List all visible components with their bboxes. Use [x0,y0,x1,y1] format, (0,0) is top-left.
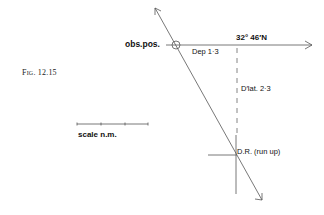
obs-pos-label: obs.pos. [125,39,160,49]
departure-label: Dep 1·3 [192,47,219,56]
plotting-diagram [0,0,324,215]
dlat-label: D′lat. 2·3 [241,84,271,93]
dr-label: D.R. (run up) [237,147,280,156]
scale-bar [77,123,148,126]
latitude-line [166,41,312,49]
scale-label: scale n.m. [78,130,117,139]
latitude-label: 32° 46′N [236,33,267,42]
